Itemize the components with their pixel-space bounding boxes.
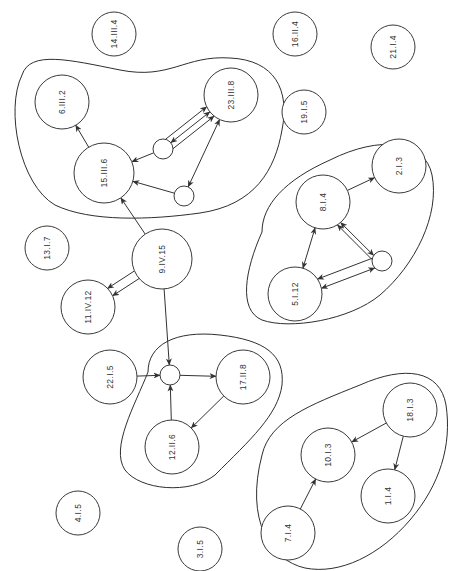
edge-n9-to-n11	[113, 279, 140, 296]
edge-n23-to-sA	[171, 112, 210, 143]
node-9-IV-15: 9.IV.15	[132, 229, 192, 289]
node-12-II-6: 12.II.6	[145, 420, 199, 474]
node-8-I-4: 8.I.4	[296, 175, 350, 229]
node-label: 11.IV.12	[83, 290, 93, 323]
node-17-II-8: 17.II.8	[216, 350, 270, 404]
node-label: 1.I.4	[383, 487, 393, 506]
edge-n12-to-sD	[170, 385, 171, 420]
node-label: 12.II.6	[167, 434, 177, 460]
directed-graph-diagram: 14.III.416.II.421.I.46.III.223.III.819.I…	[0, 0, 455, 571]
node-circle	[372, 251, 392, 271]
node-13-I-7: 13.I.7	[25, 226, 69, 270]
node-label: 19.I.5	[299, 100, 309, 124]
junction-node	[153, 139, 173, 159]
edge-sA-to-n15	[132, 153, 154, 162]
node-10-I-3: 10.I.3	[301, 428, 355, 482]
node-23-III-8: 23.III.8	[204, 68, 258, 122]
edge-sA-to-n23	[166, 107, 207, 140]
edge-n9-to-n15	[121, 198, 145, 234]
edge-n23-to-sB	[188, 120, 219, 187]
edge-n8-to-n2	[347, 178, 374, 191]
edge-n15-to-n6	[76, 125, 89, 147]
node-label: 15.III.6	[99, 158, 109, 187]
node-circle	[160, 365, 180, 385]
node-5-I-12: 5.I.12	[268, 267, 322, 321]
edge-sC-to-n8	[337, 225, 372, 260]
node-label: 6.III.2	[57, 90, 67, 114]
node-label: 7.I.4	[283, 524, 293, 543]
node-label: 23.III.8	[226, 80, 236, 109]
edge-n18-to-n10	[352, 423, 387, 442]
node-14-III-4: 14.III.4	[92, 12, 136, 56]
edge-sC-to-n5	[321, 268, 374, 288]
node-4-I-5: 4.I.5	[56, 491, 100, 535]
junction-node	[174, 186, 194, 206]
node-7-I-4: 7.I.4	[261, 506, 315, 560]
node-label: 3.I.5	[195, 540, 205, 559]
node-21-I-4: 21.I.4	[371, 25, 415, 69]
edge-n7-to-n10	[300, 479, 315, 509]
edge-sB-to-n15	[133, 181, 175, 193]
node-label: 2.I.3	[394, 157, 404, 176]
node-11-IV-12: 11.IV.12	[61, 280, 115, 334]
node-label: 21.I.4	[388, 35, 398, 59]
node-label: 14.III.4	[109, 19, 119, 48]
edge-n9-to-sD	[164, 289, 169, 365]
edge-n18-to-n1	[395, 436, 404, 470]
node-label: 8.I.4	[318, 193, 328, 212]
node-19-I-5: 19.I.5	[282, 90, 326, 134]
edge-n8-to-sC	[341, 223, 374, 256]
node-15-III-6: 15.III.6	[74, 143, 134, 203]
junction-node	[160, 365, 180, 385]
edge-n17-to-n12	[191, 396, 224, 428]
node-label: 13.I.7	[42, 236, 52, 260]
node-label: 9.IV.15	[157, 245, 167, 274]
node-label: 22.I.5	[105, 365, 115, 389]
edge-sD-to-n17	[180, 375, 216, 376]
nodes: 14.III.416.II.421.I.46.III.223.III.819.I…	[25, 12, 437, 571]
node-6-III-2: 6.III.2	[35, 75, 89, 129]
node-circle	[174, 186, 194, 206]
edge-sC-to-n5	[318, 258, 373, 279]
node-2-I-3: 2.I.3	[372, 139, 426, 193]
edge-n8-to-n5	[303, 228, 315, 268]
node-3-I-5: 3.I.5	[178, 527, 222, 571]
node-label: 18.I.3	[405, 398, 415, 422]
node-label: 5.I.12	[290, 282, 300, 306]
node-18-I-3: 18.I.3	[383, 383, 437, 437]
node-label: 17.II.8	[238, 364, 248, 390]
node-label: 4.I.5	[73, 504, 83, 523]
node-1-I-4: 1.I.4	[361, 469, 415, 523]
node-circle	[153, 139, 173, 159]
node-16-II-4: 16.II.4	[273, 12, 317, 56]
edge-n22-to-sD	[137, 375, 160, 376]
node-22-I-5: 22.I.5	[83, 350, 137, 404]
junction-node	[372, 251, 392, 271]
edge-n9-to-n11	[108, 271, 135, 289]
node-label: 16.II.4	[290, 21, 300, 47]
node-label: 10.I.3	[323, 443, 333, 467]
